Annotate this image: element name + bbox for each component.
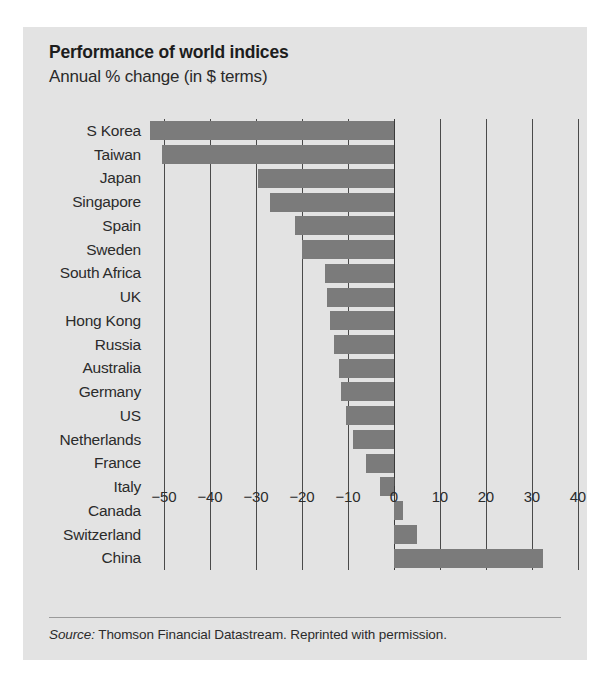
bar [366,454,394,473]
category-label: Netherlands [60,428,141,452]
category-label: Singapore [72,190,141,214]
category-label: UK [120,285,141,309]
bar [341,382,394,401]
category-axis-labels: S KoreaTaiwanJapanSingaporeSpainSwedenSo… [23,119,141,570]
category-label: Australia [82,356,141,380]
source-label: Source: [49,627,95,642]
chart-panel: Performance of world indices Annual % ch… [23,27,587,660]
category-label: Hong Kong [65,309,141,333]
axis-tick-label: 0 [390,488,398,505]
axis-tick [210,478,211,486]
category-label: Canada [88,499,141,523]
category-label: Russia [95,333,141,357]
source-text: Thomson Financial Datastream. Reprinted … [98,627,447,642]
category-label: Italy [114,475,141,499]
category-label: Japan [100,166,141,190]
value-axis: −50−40−30−20−10010203040 [141,478,587,518]
bar [334,335,394,354]
axis-tick [578,478,579,486]
chart-subtitle: Annual % change (in $ terms) [49,65,569,88]
chart-header: Performance of world indices Annual % ch… [49,41,569,88]
plot-area: S KoreaTaiwanJapanSingaporeSpainSwedenSo… [23,119,587,589]
category-label: Sweden [86,238,141,262]
category-label: S Korea [86,119,141,143]
bar [302,240,394,259]
bar [394,549,543,568]
category-label: South Africa [60,261,141,285]
axis-tick [440,478,441,486]
category-label: US [120,404,141,428]
bar [339,359,394,378]
axis-tick [302,478,303,486]
axis-tick-label: 30 [524,488,540,505]
axis-tick [164,478,165,486]
bar [346,406,394,425]
axis-tick-label: −30 [244,488,269,505]
axis-tick-label: −40 [198,488,223,505]
source-divider [49,617,561,618]
source-note: Source: Thomson Financial Datastream. Re… [49,627,564,642]
axis-tick [486,478,487,486]
axis-tick [394,478,395,486]
bar [270,193,394,212]
bar [394,525,417,544]
category-label: Spain [102,214,141,238]
bar [295,216,394,235]
bar [327,288,394,307]
axis-tick [532,478,533,486]
axis-tick-label: 40 [570,488,586,505]
bar [150,121,394,140]
category-label: Germany [79,380,141,404]
axis-tick-label: −50 [152,488,177,505]
chart-title: Performance of world indices [49,41,569,63]
bar [258,169,394,188]
axis-tick-label: 10 [432,488,448,505]
category-label: China [102,546,142,570]
bar [353,430,394,449]
axis-tick-label: −20 [289,488,314,505]
category-label: Switzerland [63,523,141,547]
bar [325,264,394,283]
bar [330,311,394,330]
category-label: France [94,451,141,475]
axis-tick [348,478,349,486]
axis-tick-label: −10 [335,488,360,505]
axis-tick [256,478,257,486]
bar [162,145,394,164]
axis-tick-label: 20 [478,488,494,505]
category-label: Taiwan [94,143,141,167]
